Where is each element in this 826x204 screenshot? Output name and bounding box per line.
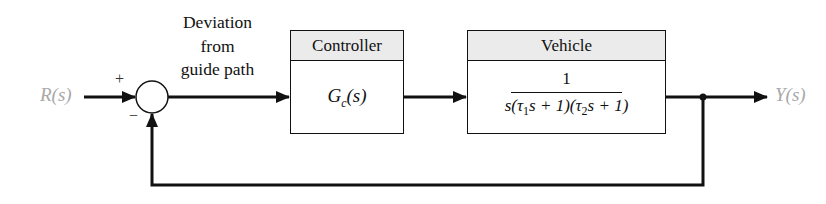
- output-label: Y(s): [775, 84, 806, 106]
- error-label-line: Deviation: [160, 11, 275, 35]
- controller-transfer-function: Gc(s): [291, 61, 403, 138]
- summing-junction: [136, 81, 168, 113]
- vehicle-header: Vehicle: [468, 31, 665, 61]
- error-label-line: from: [160, 35, 275, 59]
- plus-sign: +: [115, 70, 124, 88]
- vehicle-transfer-function: 1 s(τ1s + 1)(τ2s + 1): [468, 61, 665, 119]
- controller-block: Controller Gc(s): [290, 30, 404, 134]
- minus-sign: −: [129, 107, 138, 125]
- diagram-wiring: [0, 0, 826, 204]
- vehicle-numerator: 1: [511, 67, 623, 93]
- vehicle-block: Vehicle 1 s(τ1s + 1)(τ2s + 1): [467, 30, 666, 134]
- vehicle-denominator: s(τ1s + 1)(τ2s + 1): [505, 93, 629, 119]
- error-label: Deviation from guide path: [160, 11, 275, 82]
- controller-header: Controller: [291, 31, 403, 61]
- error-label-line: guide path: [160, 58, 275, 82]
- input-label: R(s): [40, 84, 72, 106]
